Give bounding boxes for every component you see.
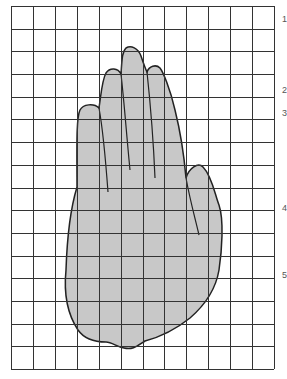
edge-label: 1	[282, 14, 287, 24]
edge-label: 2	[282, 85, 287, 95]
edge-label: 5	[282, 270, 287, 280]
hand-grid-figure	[0, 0, 287, 379]
edge-label: 4	[282, 203, 287, 213]
edge-label: 3	[282, 108, 287, 118]
